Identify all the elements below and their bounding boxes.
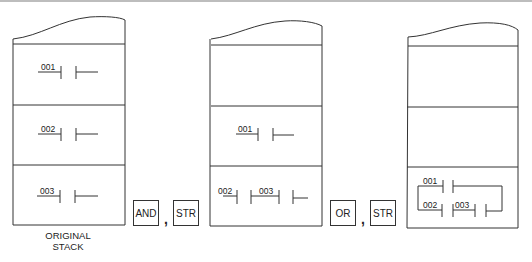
stack-after-or-str <box>407 23 518 228</box>
contact-label: 003 <box>455 201 469 210</box>
contact-label: 001 <box>41 63 55 72</box>
str-instruction-box: STR <box>370 200 396 226</box>
contact-label: 003 <box>40 187 54 196</box>
or-instruction-box: OR <box>330 200 356 226</box>
contact-label: 003 <box>259 187 273 196</box>
and-instruction-box: AND <box>133 200 159 226</box>
separator-comma: , <box>164 211 168 227</box>
separator-comma: , <box>361 211 365 227</box>
caption-line: STACK <box>28 241 108 252</box>
contact-label: 002 <box>41 125 55 134</box>
caption-line: ORIGINAL <box>28 230 108 241</box>
contact-label: 002 <box>423 201 437 210</box>
contact-label: 001 <box>238 125 252 134</box>
contact-label: 001 <box>423 177 437 186</box>
original-stack-caption: ORIGINAL STACK <box>28 230 108 252</box>
stack-diagram <box>0 0 532 262</box>
contact-label: 002 <box>218 187 232 196</box>
str-instruction-box: STR <box>173 200 199 226</box>
original-stack <box>13 17 125 225</box>
